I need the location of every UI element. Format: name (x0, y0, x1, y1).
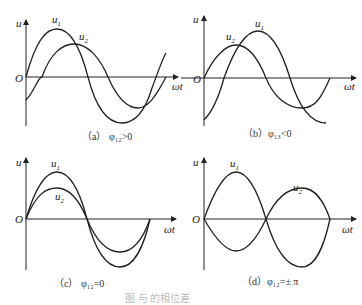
svg-text:（d）φ₁₂=± π: （d）φ₁₂=± π (242, 276, 298, 287)
panel-d: u O ωt u1 u2 （d）φ₁₂=± π (192, 156, 356, 287)
svg-text:u: u (193, 13, 199, 25)
svg-text:O: O (192, 213, 200, 225)
curve-u2 (26, 44, 166, 108)
curve-u1 (26, 29, 166, 123)
svg-text:O: O (15, 213, 23, 225)
svg-text:u: u (193, 156, 199, 168)
svg-text:u1: u1 (51, 157, 60, 172)
svg-text:ωt: ωt (342, 223, 354, 235)
svg-text:u1: u1 (52, 13, 61, 28)
phase-difference-diagram: u O ωt u1 u2 （a） φ₁₂>0 u O ωt u2 u1 （b）φ… (0, 0, 362, 305)
figure-caption: 图 与 的相位差 (125, 292, 190, 304)
curve-u2 (204, 45, 330, 108)
svg-text:ωt: ωt (164, 223, 176, 235)
svg-text:u1: u1 (230, 157, 239, 172)
svg-text:（b）φ₁₃<0: （b）φ₁₃<0 (243, 128, 291, 139)
svg-text:ωt: ωt (172, 80, 184, 92)
svg-text:u: u (16, 17, 22, 29)
svg-text:u2: u2 (79, 30, 89, 45)
svg-text:u2: u2 (226, 30, 236, 45)
svg-text:u2: u2 (55, 190, 65, 205)
svg-text:（a） φ₁₂>0: （a） φ₁₂>0 (82, 131, 132, 142)
svg-text:ωt: ωt (344, 80, 356, 92)
panel-a: u O ωt u1 u2 （a） φ₁₂>0 (15, 13, 184, 142)
svg-text:u2: u2 (293, 181, 303, 196)
svg-text:u1: u1 (255, 17, 264, 32)
svg-text:O: O (193, 73, 201, 85)
panel-b: u O ωt u2 u1 （b）φ₁₃<0 (181, 13, 356, 139)
svg-text:（c） φ₁₂=0: （c） φ₁₂=0 (54, 278, 104, 289)
svg-text:O: O (15, 72, 23, 84)
curve-u2 (26, 188, 150, 252)
svg-text:u: u (16, 156, 22, 168)
panel-c: u O ωt u1 u2 （c） φ₁₂=0 (15, 156, 176, 289)
